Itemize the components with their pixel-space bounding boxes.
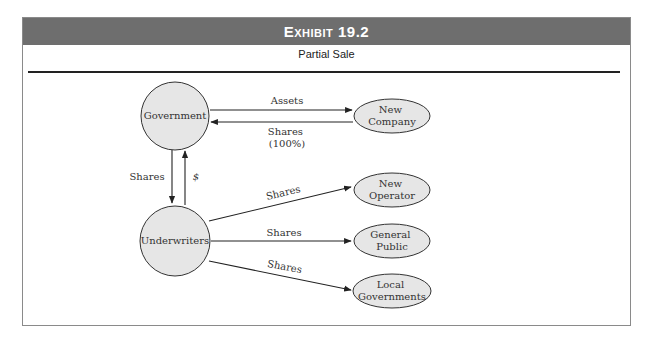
label-government: Government <box>144 110 207 121</box>
edge-label-gov-under-shares: Shares <box>129 171 164 182</box>
edge-label-assets: Assets <box>270 95 304 106</box>
label-general-public: General Public <box>370 229 413 252</box>
edge-label-operator-shares: Shares <box>265 183 302 202</box>
edge-label-public-shares: Shares <box>266 227 301 238</box>
partial-sale-diagram: Government Underwriters New Company New … <box>0 0 654 349</box>
edge-label-dollar: $ <box>193 171 199 182</box>
edge-label-local-shares: Shares <box>266 258 303 275</box>
edge-label-shares-100: Shares (100%) <box>268 126 306 149</box>
label-underwriters: Underwriters <box>141 235 209 246</box>
